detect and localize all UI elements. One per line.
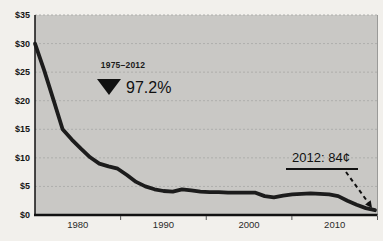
price-decline-chart: $35$30$25$20$15$10$5$0 1980199020002010 …: [0, 0, 383, 241]
y-tick-label: $10: [0, 153, 30, 163]
x-tick-label: 1980: [58, 220, 98, 230]
x-tick-label: 1990: [143, 220, 183, 230]
annotation-decline-percent: 97.2%: [126, 79, 171, 97]
annotation-decline-period: 1975–2012: [90, 60, 156, 70]
y-tick-label: $20: [0, 96, 30, 106]
y-tick-label: $25: [0, 67, 30, 77]
x-tick-label: 2010: [315, 220, 355, 230]
y-tick-label: $30: [0, 39, 30, 49]
x-tick-label: 2000: [229, 220, 269, 230]
plot-canvas: [0, 0, 383, 241]
annotation-endpoint-label: 2012: 84¢: [282, 150, 360, 165]
down-triangle-icon: [97, 79, 121, 95]
plot-area: [35, 15, 378, 215]
y-tick-label: $5: [0, 181, 30, 191]
y-tick-label: $0: [0, 210, 30, 220]
y-tick-label: $35: [0, 10, 30, 20]
y-tick-label: $15: [0, 124, 30, 134]
annotation-endpoint-underline: [286, 168, 358, 170]
